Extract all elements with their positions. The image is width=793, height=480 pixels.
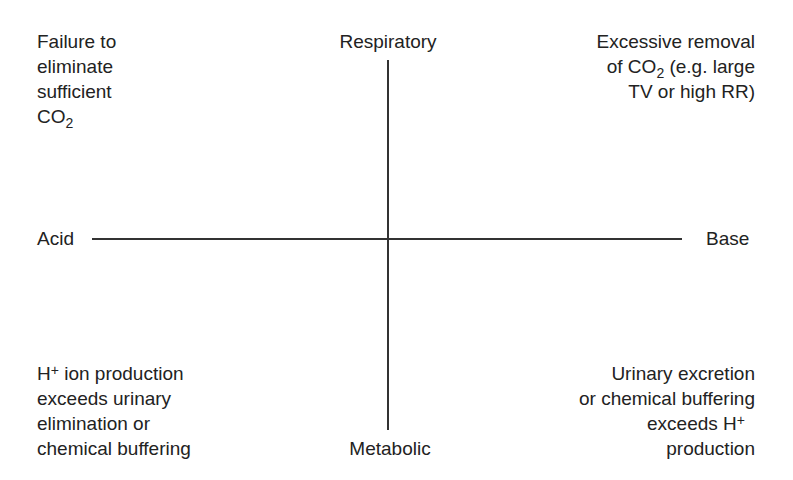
vertical-axis-line	[387, 60, 389, 430]
horizontal-axis-line	[92, 238, 682, 240]
text-line: sufficient	[37, 79, 116, 104]
text-line: Urinary excretion	[579, 361, 755, 386]
text-line: production	[579, 436, 755, 461]
text-line: Failure to	[37, 29, 116, 54]
text-line: of CO2 (e.g. large	[597, 54, 755, 79]
axis-label-base: Base	[706, 226, 749, 251]
text-line: exceeds urinary	[37, 386, 191, 411]
text-line: eliminate	[37, 54, 116, 79]
quadrant-respiratory-acidosis: Failure to eliminate sufficient CO2	[37, 29, 116, 129]
axis-label-acid: Acid	[37, 226, 74, 251]
quadrant-metabolic-alkalosis: Urinary excretion or chemical buffering …	[579, 361, 755, 461]
axis-label-metabolic: Metabolic	[330, 436, 450, 461]
text-line: exceeds H+	[579, 411, 755, 436]
co2-formula: CO2	[37, 104, 116, 129]
text-line: or chemical buffering	[579, 386, 755, 411]
text-line: chemical buffering	[37, 436, 191, 461]
text-line: Excessive removal	[597, 29, 755, 54]
quadrant-metabolic-acidosis: H+ ion production exceeds urinary elimin…	[37, 361, 191, 461]
axis-label-respiratory: Respiratory	[320, 29, 456, 54]
text-line: H+ ion production	[37, 361, 191, 386]
text-line: TV or high RR)	[597, 79, 755, 104]
text-line: elimination or	[37, 411, 191, 436]
quadrant-respiratory-alkalosis: Excessive removal of CO2 (e.g. large TV …	[597, 29, 755, 104]
